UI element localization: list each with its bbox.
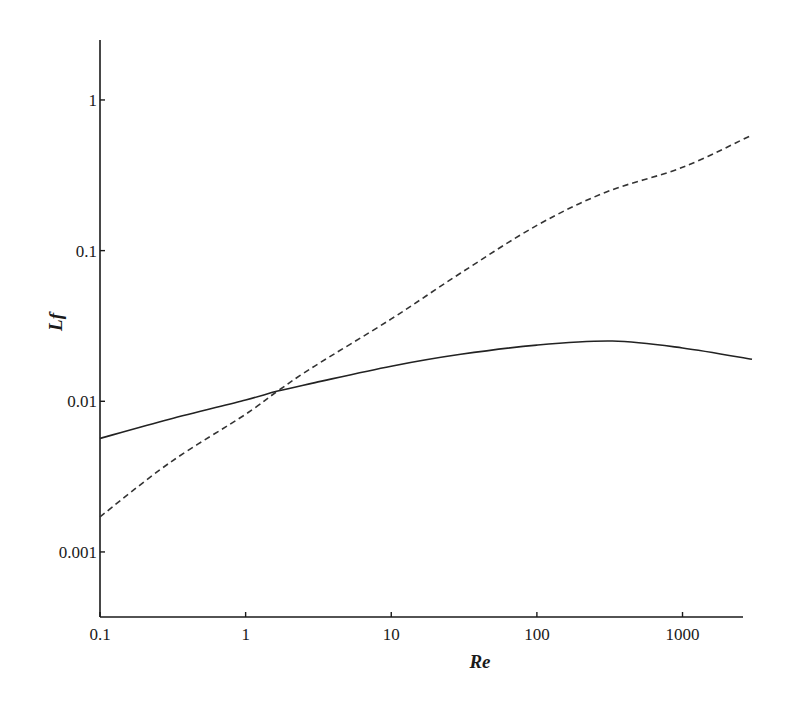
- series-line-dashed: [100, 135, 752, 517]
- y-axis-title: Lf: [45, 311, 66, 332]
- y-tick-label: 0.001: [59, 543, 97, 562]
- x-tick-label: 10: [383, 625, 400, 644]
- x-axis-title: Re: [468, 651, 491, 672]
- chart: 0.11101001000 0.0010.010.11 Re Lf: [0, 0, 790, 708]
- y-tick-label: 0.01: [67, 392, 97, 411]
- x-tick-label: 1: [241, 625, 250, 644]
- y-tick-label: 1: [89, 91, 98, 110]
- x-tick-label: 1000: [666, 625, 700, 644]
- series-layer: [100, 135, 752, 517]
- axes: [100, 40, 743, 617]
- y-tick-label: 0.1: [76, 242, 97, 261]
- x-tick-label: 100: [524, 625, 550, 644]
- series-line-solid: [100, 341, 752, 438]
- x-tick-label: 0.1: [89, 625, 110, 644]
